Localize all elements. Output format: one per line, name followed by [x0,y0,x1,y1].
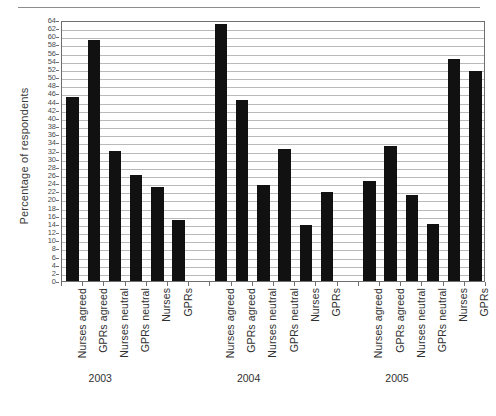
x-axis-tick-mark [188,282,189,286]
y-axis-tick-label: 28 [48,164,56,172]
bar [88,40,100,281]
bar [172,220,184,281]
x-axis-category-label: GPRs neutral [436,288,448,352]
x-axis-category-label: GPRs [478,288,490,316]
bar [236,100,248,281]
x-axis-category-label: GPRs agreed [97,288,109,353]
x-axis-tick-mark [273,282,274,286]
x-axis-group-labels: 200320042005 [61,372,485,390]
y-axis-tick-mark [56,176,59,177]
x-axis-category-label: GPRs neutral [139,288,151,352]
y-axis-tick-label: 56 [48,50,56,58]
x-axis-tick-mark [443,282,444,286]
y-axis-tick-label: 52 [48,66,56,74]
y-axis-tick-label: 14 [48,221,56,229]
x-axis-category-label: Nurses neutral [118,288,130,358]
y-axis-tick-label: 18 [48,205,56,213]
x-axis-group-label: 2003 [89,372,112,384]
x-axis-category-label: GPRs [182,288,194,316]
bar [278,149,290,281]
bar [469,71,481,281]
bar [215,24,227,281]
x-axis-tick-mark [231,282,232,286]
y-axis-tick-label: 20 [48,197,56,205]
y-axis-tick-mark [56,225,59,226]
plot-area [61,21,485,282]
y-axis-tick-mark [56,62,59,63]
bar-series [62,22,484,281]
y-axis-tick-label: 24 [48,180,56,188]
y-axis-tick-label: 36 [48,131,56,139]
x-axis-category-label: Nurses [309,288,321,322]
y-axis-tick-mark [56,37,59,38]
x-axis-tick-mark [167,282,168,286]
y-axis-tick-mark [56,103,59,104]
y-axis-tick-label: 38 [48,123,56,131]
y-axis-tick-mark [56,143,59,144]
y-axis-tick-mark [56,152,59,153]
y-axis-tick-mark [56,209,59,210]
x-axis-category-label: GPRs neutral [288,288,300,352]
y-axis-tick-mark [56,70,59,71]
x-axis-tick-mark [358,282,359,286]
bar [130,175,142,281]
x-axis-category-label: Nurses agreed [372,288,384,358]
x-axis-tick-mark [103,282,104,286]
x-axis-category-label: GPRs [330,288,342,316]
x-axis-tick-mark [464,282,465,286]
y-axis-tick-label: 40 [48,115,56,123]
bar [448,59,460,281]
y-axis-tick-label: 30 [48,156,56,164]
y-axis-tick-mark [56,119,59,120]
bar [257,185,269,281]
y-axis-tick-mark [56,274,59,275]
x-axis-category-labels: Nurses agreedGPRs agreedNurses neutralGP… [61,288,485,368]
x-axis-tick-mark [337,282,338,286]
y-axis-title: Percentage of respondents [18,46,30,266]
x-axis-tick-mark [294,282,295,286]
y-axis-tick-mark [56,192,59,193]
x-axis-category-label: Nurses [160,288,172,322]
y-axis-tick-label: 26 [48,172,56,180]
y-axis-tick-mark [56,21,59,22]
x-axis-tick-mark [315,282,316,286]
bar [363,181,375,281]
y-axis-tick-mark [56,29,59,30]
y-axis-tick-mark [56,184,59,185]
bar [384,146,396,281]
x-axis-group-label: 2004 [237,372,260,384]
x-axis-category-label: Nurses [457,288,469,322]
x-axis-group-label: 2005 [385,372,408,384]
y-axis-tick-label: 46 [48,91,56,99]
y-axis-tick-mark [56,135,59,136]
y-axis-tick-mark [56,45,59,46]
x-axis-tick-mark [125,282,126,286]
y-axis-tick-mark [56,127,59,128]
x-axis-tick-mark [146,282,147,286]
y-axis-tick-mark [56,94,59,95]
x-axis-category-label: GPRs agreed [394,288,406,353]
x-axis-category-label: GPRs agreed [245,288,257,353]
y-axis-tick-label: 54 [48,58,56,66]
x-axis-tick-mark [82,282,83,286]
x-axis-tick-mark [400,282,401,286]
y-axis-tick-label: 60 [48,34,56,42]
y-axis-tick-mark [56,200,59,201]
x-axis-tick-mark [252,282,253,286]
x-axis-tick-mark [61,282,62,286]
y-axis-tick-label: 12 [48,229,56,237]
bar [406,195,418,281]
x-axis-category-label: Nurses agreed [76,288,88,358]
x-axis-tick-marks [61,282,485,287]
y-axis-tick-mark [56,78,59,79]
y-axis-tick-mark [56,54,59,55]
y-axis-tick-mark [56,160,59,161]
y-axis-tick-label: 32 [48,148,56,156]
y-axis-tick-mark [56,111,59,112]
x-axis-tick-mark [209,282,210,286]
y-axis-tick-mark [56,217,59,218]
x-axis-category-label: Nurses agreed [224,288,236,358]
bar [151,187,163,281]
y-axis-tick-label: 16 [48,213,56,221]
bar [300,225,312,281]
